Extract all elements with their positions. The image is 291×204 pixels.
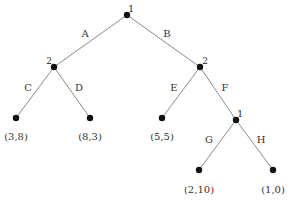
edge-g [199, 120, 236, 170]
action-label-c: C [24, 83, 32, 93]
edge-h [236, 120, 273, 170]
edge-a [54, 15, 127, 67]
payoff-label: (5,5) [150, 132, 174, 142]
player-label: 2 [46, 57, 52, 66]
action-label-b: B [163, 29, 170, 39]
terminal-node-icon [13, 115, 19, 121]
player-label: 1 [128, 5, 134, 14]
payoff-label: (8,3) [78, 132, 102, 142]
action-label-f: F [222, 83, 229, 93]
terminal-node-icon [270, 167, 276, 173]
action-label-a: A [81, 29, 88, 39]
edge-d [54, 67, 90, 118]
player-label: 2 [202, 57, 208, 66]
edge-e [162, 67, 200, 118]
player-label: 1 [237, 110, 243, 119]
edge-f [200, 67, 236, 120]
edge-b [127, 15, 200, 67]
terminal-node-icon [159, 115, 165, 121]
action-label-d: D [75, 83, 83, 93]
action-label-g: G [205, 135, 213, 145]
game-tree-diagram: ABCDEFGH1221(3,8)(8,3)(5,5)(2,10)(1,0) [0, 0, 291, 204]
action-label-h: H [257, 135, 266, 145]
terminal-node-icon [196, 167, 202, 173]
edge-c [16, 67, 54, 118]
payoff-label: (3,8) [4, 132, 28, 142]
action-label-e: E [170, 83, 177, 93]
payoff-label: (2,10) [184, 185, 214, 195]
tree-canvas [0, 0, 291, 204]
terminal-node-icon [87, 115, 93, 121]
payoff-label: (1,0) [261, 185, 285, 195]
